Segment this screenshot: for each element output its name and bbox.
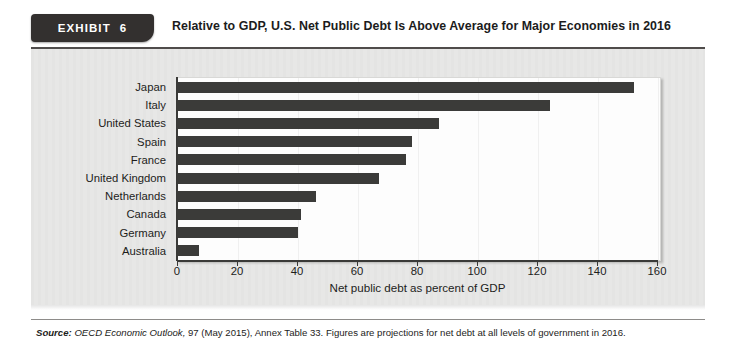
y-axis-label: Japan bbox=[0, 78, 172, 96]
tick-label: 80 bbox=[411, 265, 424, 277]
bar-series bbox=[178, 78, 658, 260]
tick-label: 120 bbox=[528, 265, 547, 277]
source-label: Source: bbox=[36, 327, 72, 338]
exhibit-badge-word: EXHIBIT bbox=[58, 22, 111, 34]
bar bbox=[178, 173, 379, 184]
exhibit-badge: EXHIBIT 6 bbox=[31, 14, 154, 42]
tick-label: 0 bbox=[174, 265, 180, 277]
bar-row bbox=[178, 151, 658, 169]
x-axis-title: Net public debt as percent of GDP bbox=[177, 281, 658, 294]
exhibit-figure: EXHIBIT 6 Relative to GDP, U.S. Net Publ… bbox=[0, 0, 736, 363]
tick-label: 60 bbox=[351, 265, 364, 277]
bar-row bbox=[178, 187, 658, 205]
bar bbox=[178, 100, 550, 111]
footer-divider bbox=[31, 319, 705, 320]
y-axis-label: Netherlands bbox=[0, 187, 172, 205]
bar-row bbox=[178, 78, 658, 96]
tick-label: 140 bbox=[588, 265, 607, 277]
y-axis-labels: JapanItalyUnited StatesSpainFranceUnited… bbox=[0, 78, 172, 260]
bar bbox=[178, 191, 316, 202]
gridline bbox=[658, 78, 659, 260]
source-publication: OECD Economic Outlook, bbox=[74, 327, 185, 338]
exhibit-title: Relative to GDP, U.S. Net Public Debt Is… bbox=[172, 19, 712, 33]
bar bbox=[178, 136, 412, 147]
exhibit-badge-number: 6 bbox=[120, 22, 128, 34]
y-axis-label: United States bbox=[0, 114, 172, 132]
bar bbox=[178, 118, 439, 129]
source-detail: 97 (May 2015), Annex Table 33. Figures a… bbox=[185, 327, 625, 338]
bar bbox=[178, 82, 634, 93]
source-note: Source: OECD Economic Outlook, 97 (May 2… bbox=[36, 327, 716, 338]
y-axis-label: France bbox=[0, 151, 172, 169]
bar bbox=[178, 227, 298, 238]
bar-row bbox=[178, 224, 658, 242]
tick-label: 100 bbox=[468, 265, 487, 277]
y-axis-label: Spain bbox=[0, 133, 172, 151]
bar-row bbox=[178, 169, 658, 187]
panel-bottom-shadow bbox=[31, 305, 705, 310]
bar-row bbox=[178, 242, 658, 260]
bar-row bbox=[178, 205, 658, 223]
bar bbox=[178, 154, 406, 165]
y-axis-label: Australia bbox=[0, 242, 172, 260]
tick-label: 20 bbox=[231, 265, 244, 277]
tick-label: 40 bbox=[291, 265, 304, 277]
y-axis-label: Germany bbox=[0, 224, 172, 242]
bar bbox=[178, 245, 199, 256]
y-axis-label: Italy bbox=[0, 96, 172, 114]
tick-label: 160 bbox=[648, 265, 667, 277]
bar-row bbox=[178, 114, 658, 132]
x-axis-ticks: 020406080100120140160 bbox=[177, 262, 658, 278]
y-axis-label: United Kingdom bbox=[0, 169, 172, 187]
y-axis-label: Canada bbox=[0, 205, 172, 223]
bar bbox=[178, 209, 301, 220]
bar-row bbox=[178, 133, 658, 151]
bar-row bbox=[178, 96, 658, 114]
